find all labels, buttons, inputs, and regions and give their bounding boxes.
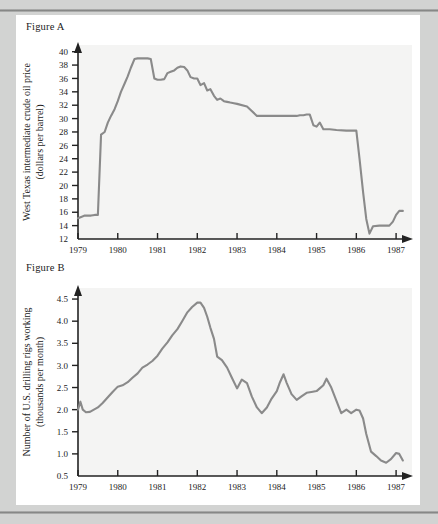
y-tick-label: 38	[59, 60, 69, 70]
x-tick-label: 1983	[228, 482, 247, 492]
x-tick-label: 1982	[188, 482, 206, 492]
y-axis-title-line2: (dollars per barrel)	[34, 105, 46, 180]
x-tick-label: 1984	[268, 482, 287, 492]
y-axis-title-line1: Number of U.S. drilling rigs working	[21, 307, 32, 456]
y-tick-label: 12	[59, 234, 68, 244]
y-tick-label: 18	[59, 194, 69, 204]
x-tick-label: 1981	[149, 245, 167, 255]
figure-b-svg: 0.51.01.52.02.53.03.54.04.51979198019811…	[16, 276, 420, 505]
x-tick-label: 1979	[69, 482, 88, 492]
top-divider-rule	[0, 9, 438, 12]
x-tick-label: 1981	[149, 482, 167, 492]
x-tick-label: 1987	[387, 482, 406, 492]
x-tick-label: 1979	[69, 245, 88, 255]
x-tick-label: 1987	[387, 245, 406, 255]
x-tick-label: 1984	[268, 245, 287, 255]
figure-a-chart: 1214161820222426283032343638401979198019…	[16, 33, 420, 258]
figure-b-chart: 0.51.01.52.02.53.03.54.04.51979198019811…	[16, 276, 420, 505]
y-tick-label: 30	[59, 114, 69, 124]
y-tick-label: 36	[59, 74, 69, 84]
y-tick-label: 34	[59, 87, 69, 97]
x-tick-label: 1982	[188, 245, 206, 255]
figure-a-svg: 1214161820222426283032343638401979198019…	[16, 33, 420, 258]
y-tick-label: 0.5	[57, 471, 69, 481]
x-tick-label: 1985	[308, 482, 327, 492]
y-tick-label: 1.0	[57, 449, 69, 459]
bottom-divider-rule	[0, 511, 438, 514]
x-tick-label: 1983	[228, 245, 247, 255]
x-tick-label: 1980	[109, 245, 128, 255]
y-tick-label: 16	[59, 207, 69, 217]
figure-b-label: Figure B	[26, 262, 65, 273]
y-tick-label: 20	[59, 181, 69, 191]
y-tick-label: 2.0	[57, 405, 69, 415]
x-tick-label: 1986	[347, 482, 366, 492]
y-tick-label: 32	[59, 100, 68, 110]
y-tick-label: 22	[59, 167, 68, 177]
y-tick-label: 1.5	[57, 427, 69, 437]
y-tick-label: 28	[59, 127, 69, 137]
page-root: Figure A Figure B 1214161820222426283032…	[0, 0, 438, 524]
figure-a-label: Figure A	[26, 21, 65, 32]
y-tick-label: 14	[59, 221, 69, 231]
y-tick-label: 40	[59, 47, 69, 57]
y-tick-label: 24	[59, 154, 69, 164]
y-axis-title-line2: (thousands per month)	[34, 337, 46, 427]
x-tick-label: 1985	[308, 245, 327, 255]
y-tick-label: 3.5	[57, 338, 69, 348]
x-tick-label: 1986	[347, 245, 366, 255]
y-tick-label: 4.5	[57, 294, 69, 304]
y-axis-title-line1: West Texas intermediate crude oil price	[21, 62, 32, 221]
y-tick-label: 4.0	[57, 316, 69, 326]
x-tick-label: 1980	[109, 482, 128, 492]
y-tick-label: 26	[59, 141, 69, 151]
y-tick-label: 2.5	[57, 383, 69, 393]
y-tick-label: 3.0	[57, 361, 69, 371]
